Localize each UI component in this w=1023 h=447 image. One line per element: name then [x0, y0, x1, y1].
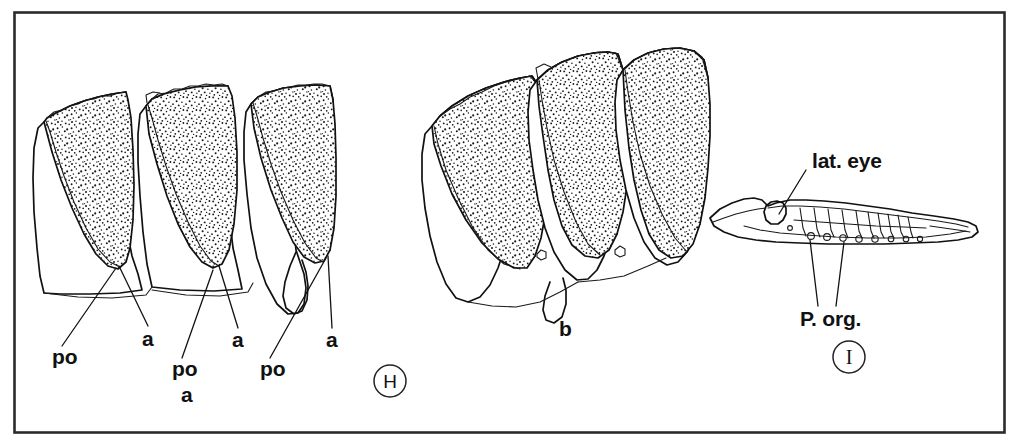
figure-container: po a po a po a a H	[0, 0, 1023, 447]
panel-h-group: po a po a po a a H	[30, 75, 406, 406]
label-po-3: po	[260, 357, 285, 380]
label-a-3: a	[326, 328, 338, 351]
panel-i-letter: I	[846, 346, 853, 368]
scientific-illustration-plate: po a po a po a a H	[0, 0, 1023, 447]
panel-b-small-knob-1	[537, 250, 546, 260]
label-lat-eye: lat. eye	[812, 149, 882, 172]
leader-a-3	[328, 256, 332, 328]
panel-b-group: b	[418, 42, 722, 340]
label-po-2: po	[172, 357, 197, 380]
label-po-1: po	[52, 345, 77, 368]
panel-i-group: lat. eye P. org. I	[710, 149, 978, 373]
panel-h-sub-label-a: a	[181, 383, 193, 406]
label-p-org: P. org.	[800, 307, 861, 330]
leader-p-org-2	[836, 242, 844, 306]
label-a-2: a	[232, 328, 244, 351]
panel-h-letter: H	[383, 371, 397, 392]
label-a-1: a	[142, 327, 154, 350]
panel-b-small-knob-2	[615, 246, 625, 257]
panel-b-label: b	[559, 317, 572, 340]
leader-p-org-1	[810, 240, 818, 306]
